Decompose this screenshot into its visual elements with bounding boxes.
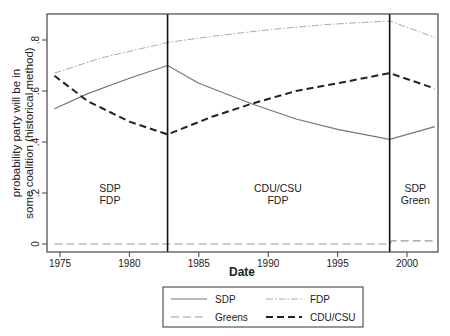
y-tick-label: .8 (30, 35, 41, 44)
legend-label-sdp: SDP (215, 294, 236, 305)
plot-area (47, 14, 438, 252)
x-axis-label: Date (229, 265, 255, 279)
period-label-3-line-2: Green (401, 194, 430, 206)
x-tick-label: 1990 (257, 258, 280, 269)
y-axis-label: probability party will be in some coalit… (10, 47, 35, 218)
legend-label-fdp: FDP (310, 294, 330, 305)
period-label-1-line-2: FDP (99, 194, 120, 206)
legend: SDPFDPGreensCDU/CSU (163, 287, 363, 327)
coalition-probability-chart: SDPFDPCDU/CSUFDPSDPGreen 197519801985199… (0, 0, 450, 336)
period-label-1-line-1: SDP (99, 182, 121, 194)
y-axis-label-line-1: probability party will be in (10, 69, 22, 197)
plot-background (47, 14, 438, 252)
period-label-2-line-1: CDU/CSU (254, 182, 302, 194)
y-axis-label-line-2: some coalition (historical method) (23, 47, 35, 218)
x-tick-label: 1995 (326, 258, 349, 269)
period-label-2-line-2: FDP (267, 194, 288, 206)
legend-label-greens: Greens (215, 312, 248, 323)
y-tick-label: 0 (30, 241, 41, 247)
period-label-3-line-1: SDP (405, 182, 427, 194)
x-tick-label: 1985 (188, 258, 211, 269)
x-tick-label: 2000 (396, 258, 419, 269)
legend-label-cducsu: CDU/CSU (310, 312, 356, 323)
x-tick-label: 1975 (49, 258, 72, 269)
x-tick-label: 1980 (118, 258, 141, 269)
